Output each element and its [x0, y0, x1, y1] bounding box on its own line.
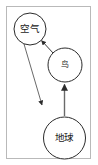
- diagram-canvas: [0, 0, 98, 165]
- edge-air-to-ground-point: [24, 44, 42, 105]
- diagram-container: 空气 鸟 地球: [0, 0, 98, 165]
- node-air-circle[interactable]: [14, 13, 46, 45]
- node-bird-circle[interactable]: [48, 48, 82, 82]
- edge-bird-to-air: [42, 41, 54, 54]
- node-earth-circle[interactable]: [44, 117, 86, 159]
